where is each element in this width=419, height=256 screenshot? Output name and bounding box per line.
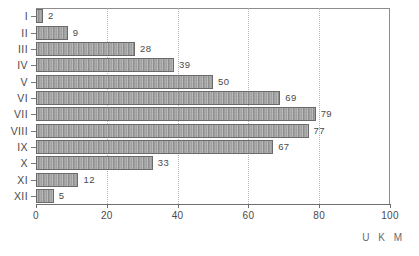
bar-value-label: 67 [278,140,289,154]
category-label: VI [0,90,28,106]
bar-value-label: 33 [158,156,169,170]
bar-row: IX67 [0,139,419,155]
bar-value-label: 39 [179,58,190,72]
x-tick-label: 40 [172,210,184,221]
bar[interactable] [36,58,174,72]
category-label: XI [0,172,28,188]
x-tick-mark [390,204,391,208]
bar-value-label: 69 [285,91,296,105]
x-axis-line [36,204,390,205]
bar[interactable] [36,9,43,23]
x-tick-label: 80 [313,210,325,221]
x-tick-mark [178,204,179,208]
bar[interactable] [36,173,78,187]
category-label: X [0,155,28,171]
x-tick-label: 0 [33,210,39,221]
category-label: XII [0,188,28,204]
bar[interactable] [36,140,273,154]
category-label: IV [0,57,28,73]
bar-row: IV39 [0,57,419,73]
bar[interactable] [36,42,135,56]
x-tick-label: 20 [101,210,113,221]
category-label: V [0,74,28,90]
bar-value-label: 28 [140,42,151,56]
bar-row: V50 [0,74,419,90]
x-axis-caption: U K M [362,232,405,243]
x-tick-mark [248,204,249,208]
category-label: II [0,25,28,41]
category-label: VII [0,106,28,122]
bar-value-label: 2 [48,9,54,23]
bar-row: X33 [0,155,419,171]
bar-value-label: 79 [321,107,332,121]
x-tick-mark [319,204,320,208]
x-tick-label: 100 [381,210,399,221]
category-label: III [0,41,28,57]
bar[interactable] [36,189,54,203]
bar[interactable] [36,26,68,40]
bar[interactable] [36,91,280,105]
bar[interactable] [36,107,316,121]
bar-row: II9 [0,25,419,41]
bar[interactable] [36,156,153,170]
x-tick-mark [107,204,108,208]
category-label: I [0,8,28,24]
bar-row: VIII77 [0,123,419,139]
bar-row: VI69 [0,90,419,106]
bar-value-label: 5 [59,189,65,203]
bar-value-label: 9 [73,26,79,40]
bar-value-label: 12 [83,173,94,187]
bar-row: III28 [0,41,419,57]
bar-value-label: 50 [218,75,229,89]
bar-row: I2 [0,8,419,24]
category-label: VIII [0,123,28,139]
x-tick-label: 60 [243,210,255,221]
bar[interactable] [36,124,309,138]
bar-row: XII5 [0,188,419,204]
bar-row: XI12 [0,172,419,188]
bar[interactable] [36,75,213,89]
x-tick-mark [36,204,37,208]
category-label: IX [0,139,28,155]
bar-chart: I2II9III28IV39V50VI69VII79VIII77IX67X33X… [0,0,419,256]
bar-row: VII79 [0,106,419,122]
bar-value-label: 77 [314,124,325,138]
